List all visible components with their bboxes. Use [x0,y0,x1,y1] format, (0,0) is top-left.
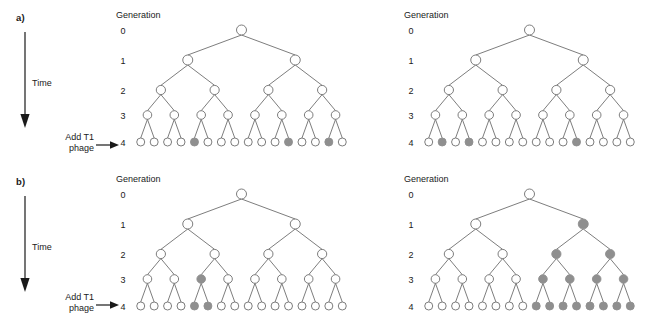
resistant-cell-node [532,302,540,310]
sensitive-cell-node [492,138,500,146]
panel-a-label: a) [16,12,25,23]
resistant-cell-node [606,249,615,258]
tree-edge [597,119,604,138]
tree-edge [503,95,516,111]
tree-edge [309,95,322,111]
sensitive-cell-node [325,302,333,310]
tree-edge [590,119,597,138]
panel-b-label: b) [16,176,25,187]
panel-b-add-phage-label: Add T1 phage [44,292,94,313]
tree-edge [309,119,316,138]
tree-edge [336,119,343,138]
tree-edge [476,35,530,55]
sensitive-cell-node [311,138,319,146]
sensitive-cell-node [224,275,233,284]
sensitive-cell-node [438,302,446,310]
tree-edge [322,259,335,275]
tree-edge [570,119,577,138]
resistant-cell-node [626,302,634,310]
tree-edge [556,65,583,85]
panel-a-add-phage-line2: phage [69,143,94,153]
tree-edge [449,65,476,85]
sensitive-cell-node [444,85,453,94]
sensitive-cell-node [285,302,293,310]
tree-edge [597,259,610,275]
tree-edge [456,119,463,138]
tree-edge [161,259,174,275]
tree-edge [583,229,610,249]
tree-edge [597,95,610,111]
tree-edge [309,283,316,302]
sensitive-cell-node [298,302,306,310]
panel-b-add-phage-line2: phage [69,303,94,313]
tree-a-left [134,22,349,154]
resistant-cell-node [566,275,575,284]
panel-a-left-gen-3: 3 [118,111,128,121]
sensitive-cell-node [237,25,247,35]
tree-edge [462,119,469,138]
tree-edge [543,95,556,111]
sensitive-cell-node [566,111,575,120]
sensitive-cell-node [251,111,260,120]
tree-edge [168,283,175,302]
tree-edge [543,283,550,302]
tree-edge [242,35,296,55]
tree-edge [268,95,281,111]
resistant-cell-node [613,302,621,310]
sensitive-cell-node [278,275,287,284]
panel-b-right-gen-4: 4 [406,302,416,312]
tree-edge [435,283,442,302]
tree-edge [242,199,296,219]
tree-edge [201,259,214,275]
tree-edge [248,119,255,138]
tree-edge [456,283,463,302]
sensitive-cell-node [425,138,433,146]
tree-edge [255,259,268,275]
resistant-cell-node [190,138,198,146]
sensitive-cell-node [164,138,172,146]
sensitive-cell-node [197,111,206,120]
tree-edge [302,283,309,302]
panel-b-left-gen-4: 4 [118,302,128,312]
sensitive-cell-node [150,302,158,310]
resistant-cell-node [190,302,198,310]
sensitive-cell-node [425,302,433,310]
sensitive-cell-node [478,138,486,146]
resistant-cell-node [578,219,588,229]
sensitive-cell-node [505,302,513,310]
panel-a-right-gen-2: 2 [406,86,416,96]
tree-edge [536,119,543,138]
sensitive-cell-node [224,111,233,120]
sensitive-cell-node [431,275,440,284]
sensitive-cell-node [546,138,554,146]
tree-edge [141,283,148,302]
tree-edge [295,65,322,85]
tree-edge [309,259,322,275]
sensitive-cell-node [264,85,273,94]
sensitive-cell-node [331,111,340,120]
tree-edge [482,119,489,138]
resistant-cell-node [325,138,333,146]
sensitive-cell-node [485,275,494,284]
sensitive-cell-node [264,249,273,258]
tree-edge [215,95,228,111]
tree-edge [563,283,570,302]
tree-edge [476,65,503,85]
resistant-cell-node [573,138,581,146]
resistant-cell-node [592,275,601,284]
panel-a-time-label: Time [32,78,52,88]
tree-edge [201,95,214,111]
tree-edge [509,119,516,138]
sensitive-cell-node [271,302,279,310]
sensitive-cell-node [578,55,588,65]
sensitive-cell-node [244,302,252,310]
sensitive-cell-node [244,138,252,146]
tree-b-left [134,186,349,318]
tree-edge [516,119,523,138]
panel-a-right-gen-1: 1 [406,56,416,66]
tree-a-right [422,22,637,154]
sensitive-cell-node [519,302,527,310]
sensitive-cell-node [290,55,300,65]
sensitive-cell-node [278,111,287,120]
tree-edge [275,119,282,138]
